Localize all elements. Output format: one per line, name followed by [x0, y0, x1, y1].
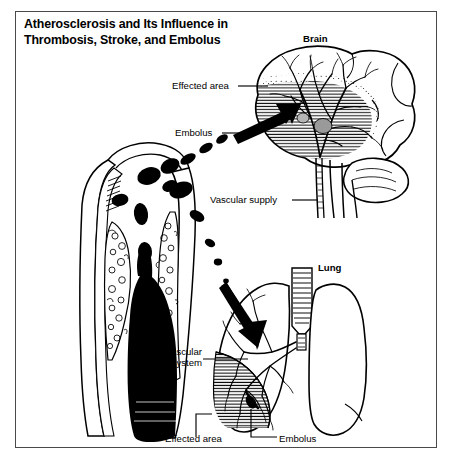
atherosclerotic-plaque-left — [105, 222, 131, 360]
label-vascular-supply: Vascular supply — [210, 194, 277, 205]
figure-title: Atherosclerosis and Its Influence in Thr… — [24, 17, 284, 48]
figure-title-line-2: Thrombosis, Stroke, and Embolus — [24, 33, 220, 47]
figure-title-line-1: Atherosclerosis and Its Influence in — [24, 17, 228, 31]
label-embolus-brain: Embolus — [175, 127, 212, 138]
label-vascular-system: Vascular system — [158, 346, 202, 369]
brainstem-left-edge — [330, 160, 334, 218]
label-effected-area-brain: Effected area — [172, 80, 229, 91]
label-lung: Lung — [318, 262, 341, 273]
carotid-vessel-outer — [316, 158, 318, 218]
brain-occlusion-node-secondary — [297, 113, 309, 123]
label-embolus-lung: Embolus — [279, 433, 316, 444]
lungs — [214, 268, 367, 435]
label-effected-area-lung: Effected area — [165, 433, 222, 444]
medical-illustration — [0, 0, 453, 464]
brainstem-right-edge — [342, 163, 344, 218]
figure-container: Atherosclerosis and Its Influence in Thr… — [0, 0, 453, 464]
lung-right — [309, 284, 366, 435]
carotid-vessel-inner — [322, 158, 324, 218]
brain-occlusion-node — [314, 119, 332, 134]
brain — [246, 46, 415, 218]
label-brain: Brain — [303, 33, 328, 44]
label-vascular-system-line-1: Vascular — [165, 346, 202, 357]
artery-cross-section — [80, 143, 195, 442]
cerebellum — [344, 158, 409, 202]
label-vascular-system-line-2: system — [172, 357, 202, 368]
main-bronchus — [297, 334, 306, 350]
